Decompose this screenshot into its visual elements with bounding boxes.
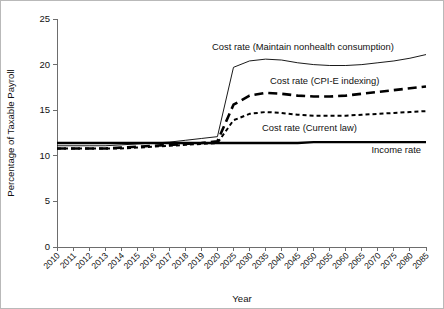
x-tick-label: 2017 [154, 250, 175, 271]
x-tick-label: 2013 [89, 250, 110, 271]
y-axis-ticks: 0510152025 [39, 13, 57, 252]
y-tick-label: 0 [45, 241, 50, 252]
x-tick-label: 2055 [314, 250, 335, 271]
x-axis-ticks: 2010201120122013201420152016201720182019… [41, 247, 431, 271]
x-tick-label: 2030 [234, 250, 255, 271]
x-tick-label: 2085 [410, 250, 431, 271]
x-tick-label: 2040 [266, 250, 287, 271]
x-tick-label: 2018 [170, 250, 191, 271]
y-tick-label: 15 [39, 104, 50, 115]
x-tick-label: 2014 [105, 250, 126, 271]
x-tick-label: 2020 [202, 250, 223, 271]
x-tick-label: 2035 [250, 250, 271, 271]
x-tick-label: 2016 [138, 250, 159, 271]
y-axis-title: Percentage of Taxable Payroll [5, 69, 16, 196]
current-law-label: Cost rate (Current law) [262, 122, 357, 133]
y-tick-label: 20 [39, 59, 50, 70]
x-tick-label: 2011 [58, 250, 78, 270]
cpie-indexing-label: Cost rate (CPI-E indexing) [270, 75, 379, 86]
income-rate-label: Income rate [371, 144, 421, 155]
y-tick-label: 25 [39, 13, 50, 24]
axes [57, 19, 426, 247]
series-line [57, 55, 426, 146]
y-tick-label: 10 [39, 150, 50, 161]
x-tick-label: 2070 [362, 250, 383, 271]
x-tick-label: 2012 [73, 250, 94, 271]
series-line [57, 142, 426, 143]
x-axis-title: Year [232, 293, 252, 304]
x-tick-label: 2019 [186, 250, 207, 271]
x-tick-label: 2015 [122, 250, 143, 271]
chart-figure: 0510152025 20102011201220132014201520162… [0, 0, 444, 309]
y-tick-label: 5 [45, 195, 50, 206]
x-tick-label: 2075 [378, 250, 399, 271]
x-tick-label: 2050 [298, 250, 319, 271]
x-tick-label: 2080 [394, 250, 415, 271]
maintain-nonhealth-label: Cost rate (Maintain nonhealth consumptio… [212, 41, 394, 52]
data-series [57, 55, 426, 149]
x-tick-label: 2060 [330, 250, 351, 271]
x-tick-label: 2045 [282, 250, 303, 271]
x-tick-label: 2010 [41, 250, 62, 271]
x-tick-label: 2065 [346, 250, 367, 271]
line-chart: 0510152025 20102011201220132014201520162… [1, 1, 444, 309]
x-tick-label: 2025 [218, 250, 239, 271]
